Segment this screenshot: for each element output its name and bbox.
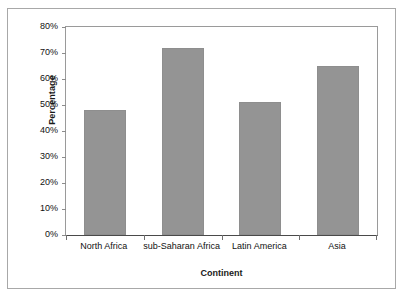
- x-axis-tick-labels: North Africasub-Saharan AfricaLatin Amer…: [65, 240, 378, 270]
- bar: [317, 66, 359, 235]
- y-tick-label: 30%: [28, 151, 58, 161]
- bar-series: [66, 27, 377, 235]
- y-tick-mark: [62, 27, 66, 28]
- y-tick-mark: [62, 209, 66, 210]
- y-tick-label: 80%: [28, 21, 58, 31]
- y-tick-mark: [62, 105, 66, 106]
- y-tick-mark: [62, 79, 66, 80]
- y-tick-mark: [62, 131, 66, 132]
- y-axis-tick-labels: 80%70%60%50%40%30%20%10%0%: [28, 20, 58, 242]
- chart-figure: Percentage 80%70%60%50%40%30%20%10%0% No…: [0, 0, 404, 298]
- x-axis-title: Continent: [65, 268, 378, 278]
- y-tick-label: 50%: [28, 99, 58, 109]
- y-tick-mark: [62, 183, 66, 184]
- bar: [162, 48, 204, 235]
- y-tick-label: 60%: [28, 73, 58, 83]
- bar: [84, 110, 126, 235]
- x-tick-label: North Africa: [65, 240, 143, 252]
- y-tick-label: 70%: [28, 47, 58, 57]
- y-tick-label: 40%: [28, 125, 58, 135]
- y-tick-mark: [62, 53, 66, 54]
- y-tick-label: 20%: [28, 177, 58, 187]
- x-tick-label: sub-Saharan Africa: [143, 240, 221, 252]
- x-tick-label: Latin America: [221, 240, 299, 252]
- bar: [239, 102, 281, 235]
- x-tick-label: Asia: [298, 240, 376, 252]
- y-tick-label: 0%: [28, 229, 58, 239]
- y-tick-mark: [62, 157, 66, 158]
- plot-area: [65, 26, 378, 236]
- y-tick-label: 10%: [28, 203, 58, 213]
